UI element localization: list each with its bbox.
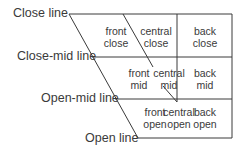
open-line-label: Open line (85, 131, 139, 145)
cell-central-close: central close (134, 25, 178, 49)
cell-back-mid: back mid (183, 67, 227, 91)
close-line-label: Close line (13, 6, 68, 20)
cell-front-close: front close (94, 25, 138, 49)
open-mid-line-label: Open-mid line (41, 91, 119, 105)
cell-back-close: back close (183, 25, 227, 49)
cell-back-open: back open (183, 106, 227, 130)
close-mid-line-label: Close-mid line (17, 49, 96, 63)
